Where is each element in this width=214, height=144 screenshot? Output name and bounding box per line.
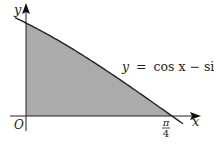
- x-tick-pi-numerator: π: [162, 117, 170, 128]
- origin-label: O: [14, 118, 24, 132]
- equation-equals: =: [136, 59, 146, 74]
- y-axis-label: y: [13, 2, 22, 17]
- equation-rhs: cos x − sin x: [154, 59, 214, 74]
- graph-figure: y x O π 4 y = cos x − sin x: [0, 0, 214, 144]
- curve-equation-label: y = cos x − sin x: [121, 59, 214, 74]
- x-tick-four-denominator: 4: [163, 128, 169, 139]
- equation-lhs: y: [121, 59, 130, 74]
- x-axis-label: x: [192, 114, 200, 129]
